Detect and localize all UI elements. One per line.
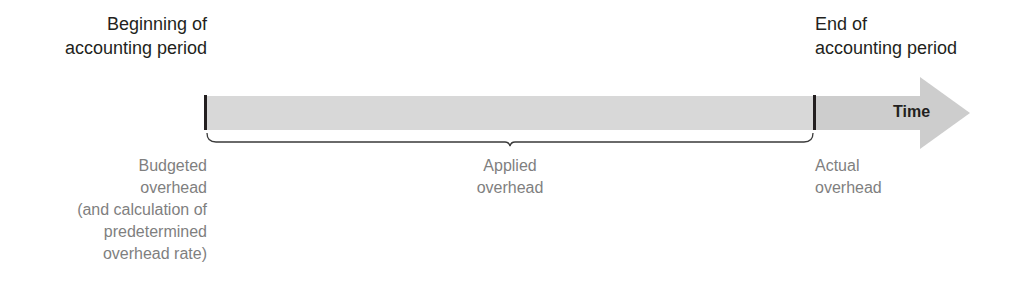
heading-line: End of <box>815 12 957 36</box>
actual-overhead-label: Actual overhead <box>815 155 882 199</box>
label-line: (and calculation of <box>0 199 207 221</box>
applied-overhead-label: Applied overhead <box>450 155 570 199</box>
label-line: overhead <box>450 177 570 199</box>
label-line: predetermined <box>0 221 207 243</box>
heading-line: Beginning of <box>0 12 207 36</box>
heading-line: accounting period <box>0 36 207 60</box>
label-line: overhead <box>0 177 207 199</box>
label-line: Budgeted <box>0 155 207 177</box>
end-of-period-heading: End of accounting period <box>815 12 957 60</box>
time-axis-label: Time <box>893 103 930 121</box>
label-line: overhead <box>815 177 882 199</box>
heading-line: accounting period <box>815 36 957 60</box>
label-line: Applied <box>450 155 570 177</box>
label-line: Actual <box>815 155 882 177</box>
beginning-of-period-heading: Beginning of accounting period <box>0 12 207 60</box>
budgeted-overhead-label: Budgeted overhead (and calculation of pr… <box>0 155 207 265</box>
start-tick <box>204 95 207 130</box>
end-tick <box>813 95 816 130</box>
label-line: overhead rate) <box>0 243 207 265</box>
applied-period-brace <box>207 133 813 146</box>
